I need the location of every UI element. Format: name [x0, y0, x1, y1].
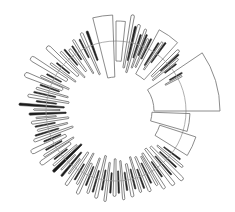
large-wedge	[148, 53, 220, 111]
radial-bar-chart	[0, 0, 235, 212]
radial-bar	[104, 162, 110, 201]
radial-bar	[143, 42, 163, 70]
big-wedges-layer	[93, 15, 220, 155]
radial-bar	[19, 103, 64, 108]
radial-bar	[118, 171, 120, 194]
radial-bar	[29, 112, 66, 115]
radial-bar	[113, 159, 116, 197]
radial-bar	[110, 173, 113, 194]
large-wedge	[155, 125, 196, 155]
radial-bar	[34, 109, 61, 111]
